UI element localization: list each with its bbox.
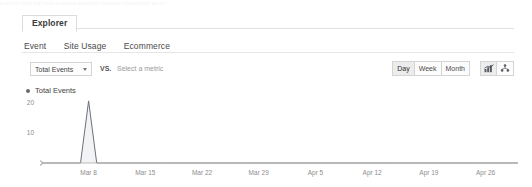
events-timeline-chart: 20 10 [18, 96, 518, 168]
x-tick-7: Apr 26 [476, 169, 495, 176]
granularity-month-button[interactable]: Month [442, 61, 470, 76]
chevron-down-icon [83, 68, 87, 71]
x-tick-0: Mar 8 [80, 169, 97, 176]
legend-series-label: Total Events [35, 86, 76, 95]
x-tick-2: Mar 22 [192, 169, 212, 176]
series-area-total-events [40, 101, 518, 163]
x-axis-tick-labels: Mar 8 Mar 15 Mar 22 Mar 29 Apr 5 Apr 12 … [18, 169, 518, 181]
y-axis-tick-10: 10 [20, 129, 34, 136]
scatter-view-button[interactable] [497, 61, 514, 76]
granularity-day-button[interactable]: Day [392, 61, 414, 76]
x-tick-4: Apr 5 [308, 169, 324, 176]
sub-tab-ecommerce[interactable]: Ecommerce [124, 41, 170, 51]
x-tick-5: Apr 12 [363, 169, 382, 176]
tab-strip: Explorer [22, 12, 514, 29]
x-tick-1: Mar 15 [135, 169, 155, 176]
vs-label: VS. [100, 65, 111, 72]
page-chrome-ghost: analytics reporting home audience acquis… [0, 0, 532, 12]
origin-point-marker [40, 161, 42, 165]
x-tick-6: Apr 19 [419, 169, 438, 176]
secondary-metric-select[interactable]: Select a metric [117, 65, 163, 72]
sub-tab-strip: Event Site Usage Ecommerce [22, 29, 514, 53]
view-toggle-group [480, 61, 514, 76]
chart-legend: Total Events [26, 86, 76, 95]
sub-tab-site-usage[interactable]: Site Usage [64, 41, 107, 51]
x-tick-3: Mar 29 [249, 169, 269, 176]
chart-svg [40, 96, 518, 168]
primary-metric-value: Total Events [35, 66, 73, 73]
scatter-view-icon [500, 64, 510, 73]
chart-plot-area[interactable] [40, 96, 518, 168]
y-axis-tick-20: 20 [20, 99, 34, 106]
granularity-button-group: Day Week Month [392, 61, 470, 76]
tab-explorer[interactable]: Explorer [22, 15, 77, 32]
explorer-panel: Explorer Event Site Usage Ecommerce Tota… [22, 12, 514, 83]
chart-view-button[interactable] [480, 61, 497, 76]
chart-view-icon [484, 64, 494, 73]
explorer-panel-screen: analytics reporting home audience acquis… [0, 0, 532, 187]
legend-marker-icon [26, 89, 30, 93]
series-line-total-events [40, 101, 518, 163]
granularity-week-button[interactable]: Week [415, 61, 442, 76]
primary-metric-select[interactable]: Total Events [30, 62, 92, 76]
chart-controls-row: Total Events VS. Select a metric Day Wee… [22, 59, 514, 83]
sub-tab-event[interactable]: Event [24, 41, 46, 51]
